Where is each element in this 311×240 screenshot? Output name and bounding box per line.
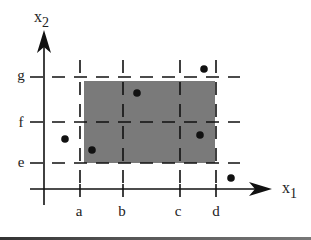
- tick-label-b: b: [118, 203, 126, 219]
- x1-axis-label: x1: [282, 179, 297, 201]
- data-point: [200, 65, 208, 73]
- data-point: [88, 146, 96, 154]
- tick-label-d: d: [212, 203, 220, 219]
- data-point: [133, 89, 141, 97]
- tick-label-e: e: [18, 154, 25, 170]
- region-diagram: x2 x1 a b c d g f e: [0, 0, 311, 240]
- data-point: [61, 135, 69, 143]
- tick-label-c: c: [175, 203, 182, 219]
- x2-axis-label: x2: [34, 8, 49, 30]
- tick-label-a: a: [76, 203, 83, 219]
- data-point: [227, 174, 235, 182]
- data-point: [196, 131, 204, 139]
- tick-label-g: g: [17, 67, 25, 83]
- tick-label-f: f: [19, 114, 24, 130]
